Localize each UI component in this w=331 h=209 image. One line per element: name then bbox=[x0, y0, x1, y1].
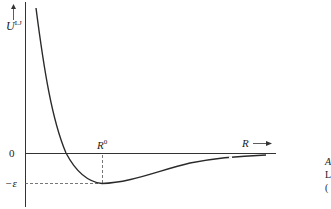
x-arrowhead-icon bbox=[266, 141, 272, 146]
minus-epsilon-tick-label: −ε bbox=[5, 178, 17, 189]
r0-label-superscript: 0 bbox=[104, 138, 108, 146]
caption-line-3: ( bbox=[325, 183, 328, 193]
r0-label: R0 bbox=[97, 139, 107, 151]
caption-line-1: A bbox=[325, 157, 331, 167]
caption-line-2: L bbox=[325, 170, 331, 180]
r0-label-text: R bbox=[97, 139, 104, 151]
y-axis-label: ULJ bbox=[6, 20, 22, 32]
y-axis-label-superscript: LJ bbox=[15, 19, 22, 27]
zero-tick-label: 0 bbox=[9, 148, 15, 159]
y-axis-label-text: U bbox=[6, 19, 15, 33]
x-axis-label: R bbox=[242, 138, 249, 149]
y-arrowhead-icon bbox=[11, 4, 16, 9]
